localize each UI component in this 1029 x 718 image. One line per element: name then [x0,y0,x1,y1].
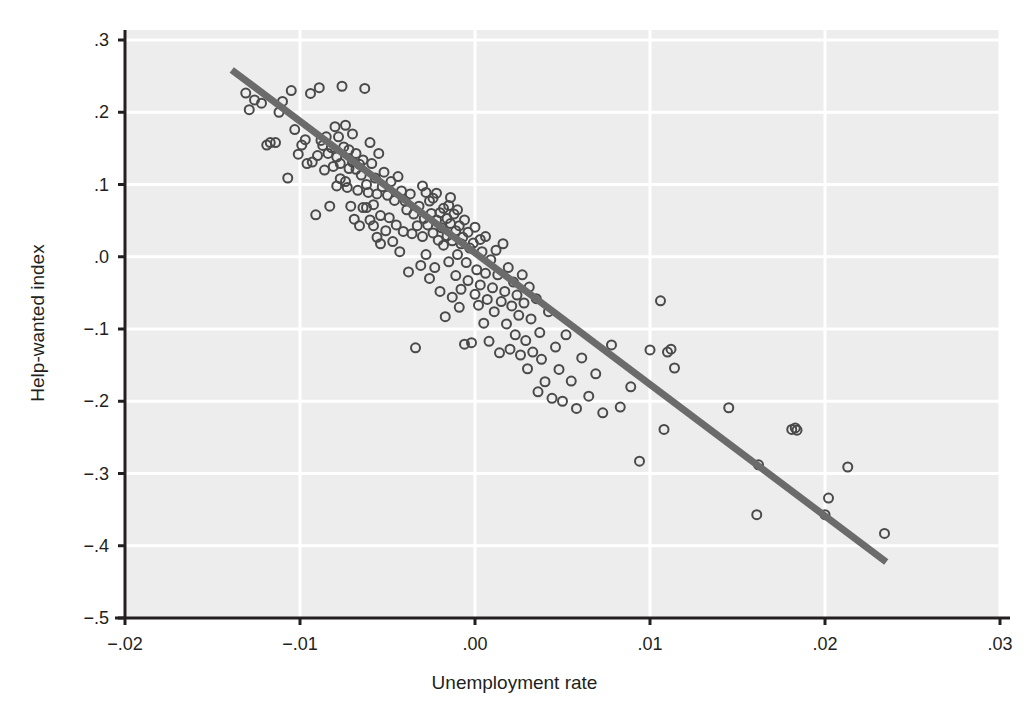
x-axis-ticks: −.02−.01.00.01.02.03 [107,618,1012,654]
x-tick-label: .03 [987,634,1012,654]
y-axis-title-text: Help-wanted index [27,244,48,401]
y-tick-label: .2 [94,102,109,122]
y-tick-label: −.3 [83,464,109,484]
x-tick-label: .01 [637,634,662,654]
y-tick-label: .3 [94,30,109,50]
y-axis-ticks: .3.2.1.0−.1−.2−.3−.4−.5 [83,30,125,628]
y-axis-title: Help-wanted index [27,163,49,483]
x-tick-label: .00 [462,634,487,654]
y-tick-label: −.2 [83,391,109,411]
x-axis-title-text: Unemployment rate [432,672,598,694]
x-tick-label: −.02 [107,634,143,654]
y-tick-label: −.5 [83,608,109,628]
y-tick-label: .0 [94,247,109,267]
chart-canvas: .3.2.1.0−.1−.2−.3−.4−.5−.02−.01.00.01.02… [0,0,1029,718]
plot-panel-background [125,30,1000,618]
y-tick-label: −.4 [83,536,109,556]
y-tick-label: .1 [94,175,109,195]
scatter-plot-figure: .3.2.1.0−.1−.2−.3−.4−.5−.02−.01.00.01.02… [0,0,1029,718]
x-tick-label: −.01 [282,634,318,654]
x-tick-label: .02 [812,634,837,654]
y-tick-label: −.1 [83,319,109,339]
x-axis-title: Unemployment rate [0,672,1029,694]
